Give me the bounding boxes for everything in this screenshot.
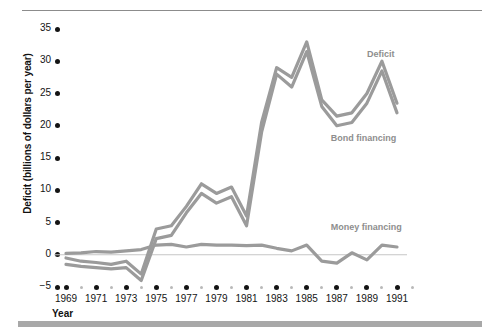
chart-figure: Deficit (billions of dollars per year) Y… bbox=[0, 0, 482, 336]
series-label: Money financing bbox=[331, 222, 402, 232]
series-label: Deficit bbox=[367, 49, 395, 59]
series-line bbox=[66, 42, 397, 274]
series-line bbox=[66, 244, 397, 263]
plot-area bbox=[0, 0, 482, 336]
series-lines bbox=[66, 42, 397, 281]
series-label: Bond financing bbox=[331, 133, 397, 143]
